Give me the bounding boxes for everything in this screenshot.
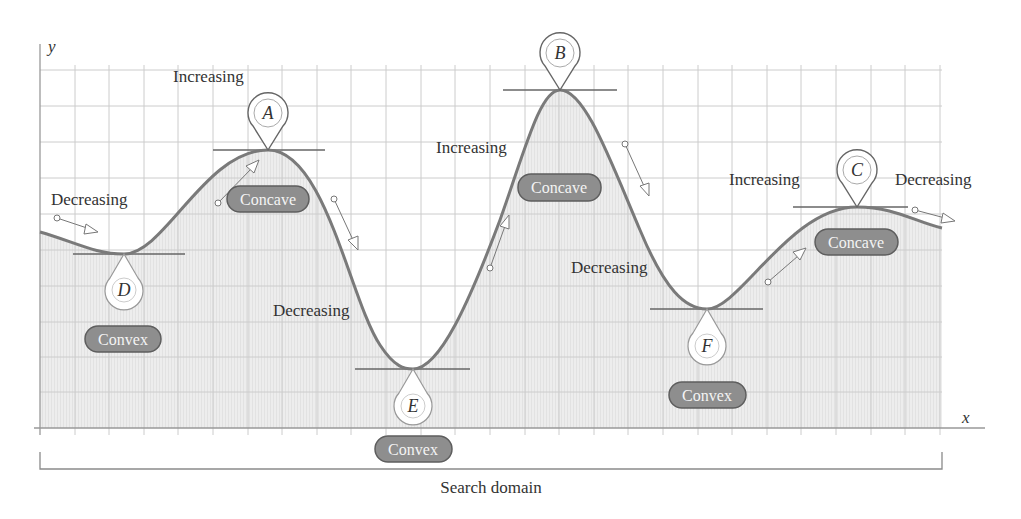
trend-label-decreasing: Decreasing — [571, 258, 648, 277]
point-label-e: E — [407, 396, 419, 416]
svg-text:Convex: Convex — [388, 441, 438, 458]
curvature-badge-c: Concave — [815, 229, 898, 255]
point-label-c: C — [851, 160, 864, 180]
point-label-a: A — [262, 103, 275, 123]
trend-label-increasing: Increasing — [436, 138, 507, 157]
search-domain-bracket — [40, 452, 942, 469]
optimization-diagram: y x — [0, 0, 1021, 519]
svg-text:Concave: Concave — [240, 191, 296, 208]
curvature-badge-a: Concave — [227, 186, 309, 212]
arrow-icon-decreasing-b — [622, 141, 649, 196]
curvature-badge-d: Convex — [85, 326, 161, 352]
trend-label-increasing: Increasing — [173, 67, 244, 86]
search-domain-label: Search domain — [440, 478, 542, 497]
trend-label-increasing: Increasing — [729, 170, 800, 189]
svg-text:Convex: Convex — [98, 331, 148, 348]
point-label-f: F — [701, 336, 714, 356]
arrow-icon-decreasing-left — [54, 215, 98, 234]
trend-label-decreasing: Decreasing — [51, 190, 128, 209]
pin-icon-b: B — [540, 33, 580, 90]
svg-text:Convex: Convex — [682, 387, 732, 404]
point-label-d: D — [117, 280, 131, 300]
y-axis-label: y — [46, 37, 56, 56]
svg-text:Concave: Concave — [531, 179, 587, 196]
trend-label-decreasing: Decreasing — [895, 170, 972, 189]
curvature-badge-e: Convex — [375, 436, 452, 462]
x-axis-label: x — [961, 408, 970, 427]
curvature-badge-b: Concave — [518, 174, 601, 201]
svg-text:Concave: Concave — [828, 234, 884, 251]
area-under-curve — [40, 40, 942, 428]
trend-label-decreasing: Decreasing — [273, 301, 350, 320]
curvature-badge-f: Convex — [669, 382, 746, 408]
point-label-b: B — [555, 43, 566, 63]
